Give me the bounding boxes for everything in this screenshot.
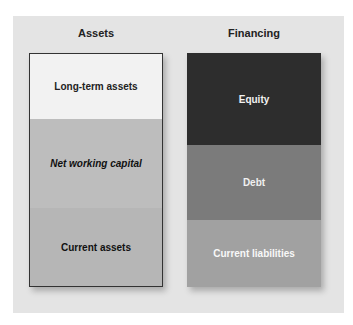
- assets-heading: Assets: [29, 27, 163, 39]
- equity-block: Equity: [187, 53, 321, 145]
- current-assets-block: Current assets: [30, 208, 162, 286]
- long-term-assets-block: Long-term assets: [30, 54, 162, 119]
- current-liabilities-block: Current liabilities: [187, 220, 321, 287]
- debt-block: Debt: [187, 145, 321, 220]
- net-working-capital-block: Net working capital: [30, 119, 162, 208]
- assets-column: Long-term assets Net working capital Cur…: [29, 53, 163, 287]
- financing-column: Equity Debt Current liabilities: [187, 53, 321, 287]
- financing-heading: Financing: [187, 27, 321, 39]
